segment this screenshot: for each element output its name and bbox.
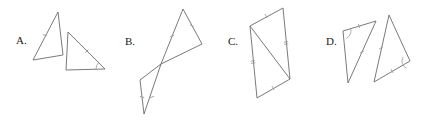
triangle-a-right — [66, 32, 105, 70]
arc-a-right-vertex — [96, 63, 99, 69]
choice-label-a: A. — [16, 34, 27, 46]
choice-label-b: B. — [125, 35, 135, 47]
tick-c-left-side — [251, 61, 256, 64]
figure-canvas: A.B.C.D. — [0, 0, 422, 122]
arc-d-right-vertex — [402, 57, 407, 68]
choice-group-d: D. — [326, 15, 410, 83]
triangle-a-left — [33, 12, 63, 60]
triangle-b-upper — [161, 9, 202, 64]
choice-group-a: A. — [16, 12, 105, 70]
diagonal-c — [250, 26, 290, 79]
choice-group-b: B. — [125, 9, 202, 114]
tick-a-left-side — [43, 35, 47, 36]
tick-b-lower-side — [150, 96, 154, 97]
geometry-figure-sheet: A.B.C.D. — [0, 0, 422, 122]
choice-group-c: C. — [228, 8, 290, 98]
choice-label-d: D. — [326, 35, 337, 47]
choice-label-c: C. — [228, 35, 238, 47]
tick-b-lower-base — [140, 96, 144, 97]
triangle-b-lower — [140, 64, 161, 114]
triangle-d-left — [343, 21, 376, 83]
